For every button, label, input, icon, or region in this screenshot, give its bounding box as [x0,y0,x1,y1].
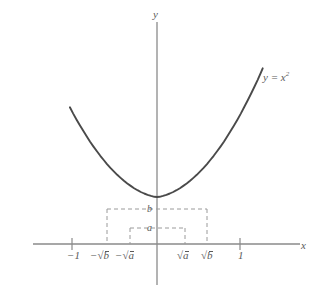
x-tick-label-pos-sqrt-a: √a [177,250,189,261]
minus-sign: − [90,249,97,261]
level-label-a: a [147,223,152,233]
sqrt-group-b-pos: √b [201,250,213,261]
level-label-b: b [147,204,152,214]
curve-label: y = x2 [263,71,289,83]
x-tick-label-neg-one: −1 [67,250,80,261]
parabola-plot-svg [0,0,315,298]
x-axis-label: x [301,240,306,251]
figure-canvas: y x y = x2 b a −1 1 −√b −√a √a √b [0,0,315,298]
curve-label-exponent: 2 [286,70,290,78]
x-tick-label-neg-sqrt-a: −√a [115,250,134,261]
radical-bar [185,251,189,252]
x-tick-label-one: 1 [238,250,244,261]
curve-label-text: y = x [263,71,286,83]
sqrt-group-a-pos: √a [177,250,189,261]
radical-bar [130,251,134,252]
sqrt-group-b-neg: √b [97,250,109,261]
radical-bar [209,251,213,252]
radical-bar [105,251,109,252]
x-tick-label-pos-sqrt-b: √b [201,250,213,261]
sqrt-group-a-neg: √a [122,250,134,261]
y-axis-label: y [153,9,158,20]
minus-sign: − [115,249,122,261]
x-tick-label-neg-sqrt-b: −√b [90,250,109,261]
parabola-curve [70,68,263,197]
